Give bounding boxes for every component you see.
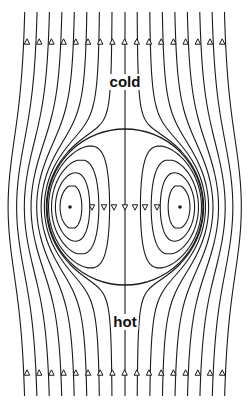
up-arrow-icon — [134, 39, 139, 44]
vortex-streamline — [49, 146, 110, 268]
external-streamline — [41, 12, 87, 396]
up-arrow-icon — [73, 370, 78, 375]
hot-label: hot — [111, 314, 138, 330]
down-arrow-icon — [122, 205, 127, 210]
vortex-core-dot — [68, 205, 72, 209]
vortex-streamline — [140, 146, 201, 268]
external-streamline — [46, 12, 112, 396]
up-arrow-icon — [219, 370, 224, 375]
down-arrow-icon — [111, 205, 116, 210]
up-arrow-icon — [122, 370, 127, 375]
external-streamline — [212, 12, 233, 396]
up-arrow-icon — [36, 370, 41, 375]
external-streamline — [17, 12, 37, 396]
down-arrow-icon — [132, 205, 137, 210]
external-streamline — [175, 12, 213, 396]
up-arrow-icon — [61, 39, 66, 44]
up-arrow-icon — [207, 39, 212, 44]
cold-label: cold — [108, 74, 143, 90]
down-arrow-icon — [101, 205, 106, 210]
up-arrow-icon — [195, 39, 200, 44]
external-streamline — [137, 12, 203, 396]
up-arrow-icon — [207, 370, 212, 375]
up-arrow-icon — [219, 39, 224, 44]
down-arrow-icon — [154, 205, 159, 210]
up-arrow-icon — [183, 370, 188, 375]
up-arrow-icon — [61, 370, 66, 375]
external-streamlines — [8, 12, 241, 396]
up-arrow-icon — [146, 39, 151, 44]
streamline-diagram — [0, 0, 248, 410]
up-arrow-icon — [49, 370, 54, 375]
up-arrow-icon — [97, 39, 102, 44]
up-arrow-icon — [171, 370, 176, 375]
up-arrow-icon — [24, 39, 29, 44]
up-arrow-icon — [183, 39, 188, 44]
up-arrow-icon — [110, 370, 115, 375]
up-arrow-icon — [110, 39, 115, 44]
up-arrow-icon — [134, 370, 139, 375]
up-arrow-icon — [36, 39, 41, 44]
down-arrow-icon — [142, 205, 147, 210]
up-arrow-icon — [195, 370, 200, 375]
up-arrow-icon — [122, 39, 127, 44]
up-arrow-icon — [49, 39, 54, 44]
up-arrow-icon — [24, 370, 29, 375]
vortex-core-dot — [178, 205, 182, 209]
